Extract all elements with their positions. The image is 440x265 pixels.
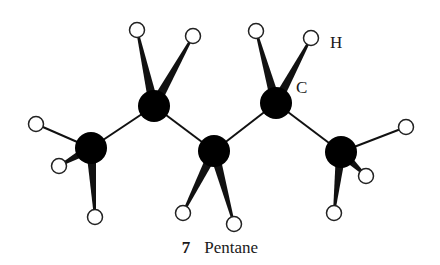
carbon-atom (198, 135, 230, 167)
hydrogen-atom (249, 24, 264, 39)
hydrogen-atom (88, 210, 103, 225)
hydrogen-atom (304, 31, 319, 46)
figure-number: 7 (182, 238, 191, 257)
hydrogen-label: H (330, 34, 342, 51)
pentane-molecule-diagram (0, 0, 440, 265)
hydrogen-atom (359, 169, 374, 184)
hydrogen-atom (227, 217, 242, 232)
carbon-atom (260, 87, 292, 119)
carbon-atom (138, 90, 170, 122)
bonds (36, 30, 406, 224)
hydrogen-atom (186, 29, 201, 44)
hydrogen-atom (29, 117, 44, 132)
hydrogen-atom (52, 159, 67, 174)
figure-caption: 7Pentane (0, 238, 440, 258)
carbon-atoms (75, 87, 357, 168)
carbon-label: C (296, 79, 307, 96)
hydrogen-atom (327, 206, 342, 221)
carbon-atom (325, 136, 357, 168)
figure-title: Pentane (204, 238, 258, 257)
hydrogen-atoms (29, 23, 414, 232)
hydrogen-atom (399, 120, 414, 135)
hydrogen-atom (176, 206, 191, 221)
hydrogen-atom (130, 23, 145, 38)
carbon-atom (75, 132, 107, 164)
